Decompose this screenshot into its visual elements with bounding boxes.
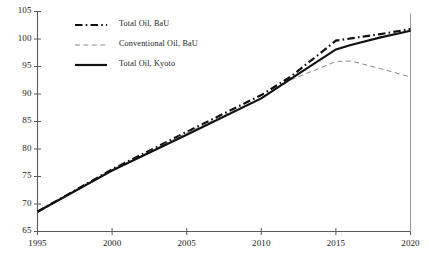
series-line-1 [38,29,411,212]
series-line-3 [38,31,411,212]
plot-area [0,0,429,260]
data-series-group [38,29,411,212]
line-chart: Total Oil, BaUConventional Oil, BaUTotal… [0,0,429,260]
series-line-2 [38,61,411,212]
